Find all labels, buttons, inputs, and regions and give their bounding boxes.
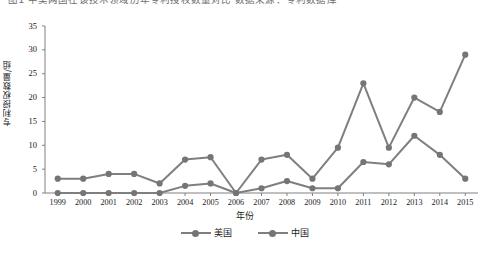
chart-figure: 图1 中美两国在该技术领域历年专利授权数量对比 数据来源：专利数据库 专利授权数… <box>0 0 489 254</box>
series-us <box>55 52 469 197</box>
series-line <box>58 55 466 193</box>
data-point[interactable] <box>182 183 188 189</box>
data-point[interactable] <box>411 133 417 139</box>
data-point[interactable] <box>233 190 239 196</box>
data-point[interactable] <box>157 190 163 196</box>
data-point[interactable] <box>106 190 112 196</box>
data-point[interactable] <box>80 190 86 196</box>
data-point[interactable] <box>55 176 61 182</box>
data-point[interactable] <box>462 176 468 182</box>
data-point[interactable] <box>360 159 366 165</box>
data-point[interactable] <box>335 145 341 151</box>
legend-line-icon-us <box>181 229 211 238</box>
data-point[interactable] <box>182 157 188 163</box>
data-point[interactable] <box>411 94 417 100</box>
data-point[interactable] <box>309 185 315 191</box>
data-point[interactable] <box>106 171 112 177</box>
data-point[interactable] <box>258 185 264 191</box>
data-point[interactable] <box>131 190 137 196</box>
y-tick-label: 30 <box>17 45 37 54</box>
y-tick-label: 35 <box>17 22 37 31</box>
legend-item-us[interactable]: 美国 <box>181 228 232 238</box>
data-point[interactable] <box>386 161 392 167</box>
data-point[interactable] <box>437 152 443 158</box>
series-cn <box>55 133 469 196</box>
data-point[interactable] <box>462 52 468 58</box>
data-point[interactable] <box>309 176 315 182</box>
x-tick-label: 2015 <box>450 198 480 207</box>
legend-label-cn: 中国 <box>291 228 309 238</box>
series-line <box>58 136 466 193</box>
plot-area <box>0 0 489 254</box>
y-tick-label: 5 <box>17 165 37 174</box>
y-tick-label: 15 <box>17 117 37 126</box>
data-point[interactable] <box>207 180 213 186</box>
data-point[interactable] <box>80 176 86 182</box>
series-layer <box>55 52 469 197</box>
data-point[interactable] <box>360 80 366 86</box>
chart-legend: 美国 中国 <box>0 228 489 238</box>
legend-item-cn[interactable]: 中国 <box>258 228 309 238</box>
y-tick-label: 0 <box>17 189 37 198</box>
axis-lines <box>45 26 478 193</box>
legend-line-icon-cn <box>258 229 288 238</box>
legend-label-us: 美国 <box>214 228 232 238</box>
data-point[interactable] <box>131 171 137 177</box>
data-point[interactable] <box>207 154 213 160</box>
data-point[interactable] <box>157 180 163 186</box>
data-point[interactable] <box>284 178 290 184</box>
data-point[interactable] <box>284 152 290 158</box>
data-point[interactable] <box>258 157 264 163</box>
data-point[interactable] <box>437 109 443 115</box>
y-tick-label: 10 <box>17 141 37 150</box>
data-point[interactable] <box>55 190 61 196</box>
y-tick-label: 20 <box>17 93 37 102</box>
data-point[interactable] <box>386 145 392 151</box>
y-tick-label: 25 <box>17 69 37 78</box>
data-point[interactable] <box>335 185 341 191</box>
